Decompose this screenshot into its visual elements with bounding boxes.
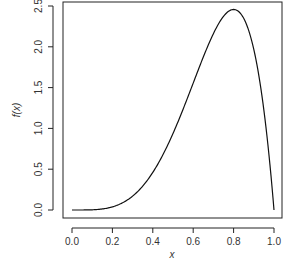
x-tick-label: 0.2 <box>105 236 119 247</box>
x-tick-label: 0.4 <box>146 236 160 247</box>
y-axis: 0.00.51.01.52.02.5 <box>33 0 53 217</box>
x-tick-label: 1.0 <box>267 236 281 247</box>
y-tick-label: 2.5 <box>33 0 44 13</box>
y-tick-label: 2.0 <box>33 39 44 53</box>
x-tick-label: 0.0 <box>65 236 79 247</box>
y-tick-label: 1.5 <box>33 80 44 94</box>
x-tick-label: 0.8 <box>227 236 241 247</box>
density-curve <box>72 9 274 210</box>
density-chart: 0.00.51.01.52.02.5 0.00.20.40.60.81.0 x … <box>0 0 289 264</box>
y-axis-label: f(x) <box>11 103 22 117</box>
y-tick-label: 0.5 <box>33 162 44 176</box>
x-axis: 0.00.20.40.60.81.0 <box>65 228 281 247</box>
y-tick-label: 1.0 <box>33 121 44 135</box>
x-tick-label: 0.6 <box>186 236 200 247</box>
plot-box <box>63 2 282 218</box>
y-tick-label: 0.0 <box>33 203 44 217</box>
x-axis-label: x <box>169 249 176 260</box>
